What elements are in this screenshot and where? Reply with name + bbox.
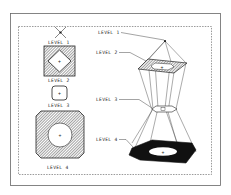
left-label-level-2: LEVEL 2 <box>48 78 69 83</box>
left-label-level-1: LEVEL 1 <box>48 40 69 45</box>
apex-point <box>164 40 166 42</box>
right-level-3-ring <box>152 106 177 112</box>
right-label-level-4: LEVEL 4 <box>96 137 117 142</box>
right-label-level-2: LEVEL 2 <box>96 50 117 55</box>
left-label-level-3: LEVEL 3 <box>48 103 69 108</box>
left-level-3-shape: + <box>52 86 67 100</box>
diagram-canvas: LEVEL 1 + LEVEL 2 + LEVEL 3 + LEVEL 4 <box>0 0 231 195</box>
svg-text:+: + <box>161 64 164 70</box>
svg-text:+: + <box>59 132 62 138</box>
svg-text:+: + <box>58 90 61 96</box>
left-label-level-4: LEVEL 4 <box>47 165 68 170</box>
right-label-level-3: LEVEL 3 <box>96 97 117 102</box>
right-label-level-1: LEVEL 1 <box>98 30 119 35</box>
left-level-4-shape: + <box>36 111 84 158</box>
svg-text:+: + <box>162 149 165 155</box>
left-level-2-shape: + <box>44 46 75 76</box>
center-mark: + <box>58 58 61 64</box>
